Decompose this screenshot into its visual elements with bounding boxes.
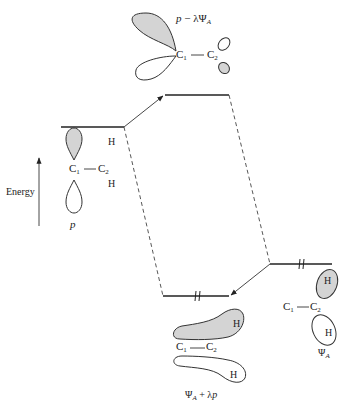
shaded-p-lobe bbox=[66, 128, 82, 160]
c2-atom: C2 bbox=[98, 162, 109, 176]
p-to-antibonding-arrow bbox=[124, 96, 163, 127]
p-to-bonding-dashed bbox=[124, 127, 163, 296]
antibonding-to-psiA-dashed bbox=[229, 95, 270, 264]
c2-atom: C2 bbox=[207, 48, 218, 62]
antibonding-orbital: p − λΨA C1 C2 bbox=[132, 12, 232, 80]
energy-levels bbox=[61, 95, 332, 301]
empty-p-lobe bbox=[136, 56, 176, 80]
correlation-lines bbox=[124, 95, 270, 296]
orbital-interaction-diagram: Energy p − λΨA C1 C2 bbox=[0, 0, 343, 408]
psiA-orbital: H C1 C2 H ΨA bbox=[283, 266, 342, 360]
empty-h-lobe bbox=[307, 311, 340, 349]
energy-axis: Energy bbox=[6, 158, 39, 226]
c2-atom: C2 bbox=[206, 340, 217, 354]
c1-atom: C1 bbox=[69, 162, 80, 176]
h-bottom-atom: H bbox=[108, 178, 115, 189]
c1-atom: C1 bbox=[176, 340, 187, 354]
empty-p-lobe bbox=[66, 180, 82, 213]
c2-atom: C2 bbox=[310, 300, 321, 314]
bonding-orbital-label: ΨA + λp bbox=[185, 389, 217, 402]
p-orbital: C1 C2 H H p bbox=[66, 128, 115, 230]
h-top-atom: H bbox=[108, 136, 115, 147]
h-bottom-atom: H bbox=[230, 369, 237, 380]
antibonding-orbital-label: p − λΨA bbox=[175, 12, 212, 26]
psiA-orbital-label: ΨA bbox=[318, 347, 330, 360]
h-bottom-atom: H bbox=[325, 327, 332, 338]
bonding-orbital: H C1 C2 H ΨA + λp bbox=[173, 309, 245, 402]
small-empty-lobe bbox=[216, 35, 233, 52]
h-top-atom: H bbox=[233, 318, 240, 329]
psiA-to-bonding-arrow bbox=[231, 264, 270, 295]
h-top-atom: H bbox=[324, 275, 331, 286]
p-orbital-label: p bbox=[69, 218, 76, 230]
c1-atom: C1 bbox=[176, 48, 187, 62]
small-shaded-lobe bbox=[216, 60, 231, 76]
shaded-p-lobe bbox=[132, 13, 176, 51]
c1-atom: C1 bbox=[283, 300, 294, 314]
energy-axis-label: Energy bbox=[6, 186, 35, 197]
